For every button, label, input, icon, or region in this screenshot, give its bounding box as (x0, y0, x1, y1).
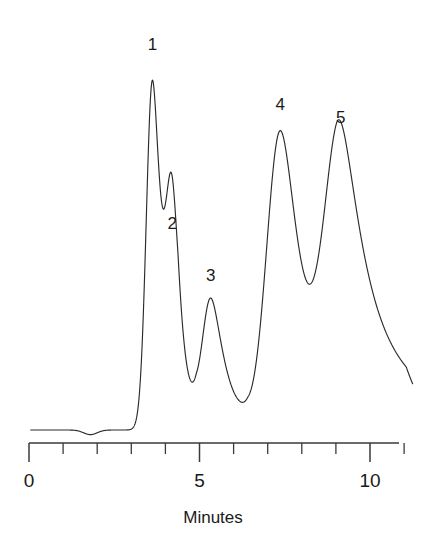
x-axis-tick-label: 10 (359, 470, 380, 491)
x-axis-title: Minutes (183, 508, 243, 527)
chromatogram-trace (31, 80, 413, 435)
peak-number-label: 4 (276, 95, 285, 114)
x-axis-tick-label: 5 (194, 470, 205, 491)
x-axis-tick-label: 0 (24, 470, 35, 491)
peak-number-label: 5 (336, 108, 345, 127)
x-axis-ticks (29, 443, 404, 462)
chromatogram-figure: 0510 12345 Minutes (0, 0, 427, 548)
x-axis-tick-labels: 0510 (24, 470, 381, 491)
peak-number-label: 2 (167, 214, 176, 233)
trace-group (31, 80, 413, 435)
peak-number-label: 1 (148, 35, 157, 54)
peak-number-label: 3 (206, 266, 215, 285)
chromatogram-plot: 0510 12345 Minutes (0, 0, 427, 548)
x-axis-group: 0510 (24, 443, 404, 491)
